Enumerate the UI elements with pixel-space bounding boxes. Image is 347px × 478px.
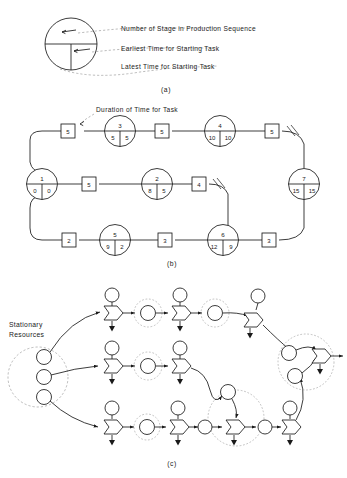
panel-a: Number of Stage in Production Sequence E… xyxy=(45,18,256,94)
row3-transition-4 xyxy=(282,420,301,434)
row1-place-1 xyxy=(141,306,156,321)
row3-input-place-3 xyxy=(283,401,297,415)
tr-place-1 xyxy=(282,346,297,361)
duration-box-1-5: 2 xyxy=(62,233,76,247)
row3-transition-2 xyxy=(170,420,189,434)
panel-c: Stationary Resources xyxy=(8,288,343,468)
node-2-stage: 2 xyxy=(155,175,159,182)
node-6: 6 12 9 xyxy=(208,225,239,256)
row2-sink-1 xyxy=(109,374,115,385)
node-6-earliest: 12 xyxy=(211,244,218,250)
node-6-stage: 6 xyxy=(221,231,225,238)
row2-sink-2 xyxy=(177,374,183,385)
caption-panel-c: (c) xyxy=(167,460,176,468)
row3-place-1 xyxy=(140,420,155,435)
node-2: 2 8 5 xyxy=(142,169,173,200)
legend-text-latest: Latest Time for Starting Task xyxy=(121,63,215,71)
node-1: 1 0 0 xyxy=(27,169,58,200)
figure-canvas: Number of Stage in Production Sequence E… xyxy=(0,0,347,478)
node-5: 5 9 2 xyxy=(100,225,131,256)
node-4-stage: 4 xyxy=(218,122,222,129)
legend-annotation-latest: Latest Time for Starting Task xyxy=(121,63,215,71)
row2-place-1 xyxy=(141,359,156,374)
stationary-resources-group: Stationary Resources xyxy=(8,321,68,407)
tr-transition xyxy=(312,349,331,363)
row1-input-place-2 xyxy=(173,288,187,302)
merge-transition xyxy=(244,313,263,327)
resource-place-2 xyxy=(37,370,52,385)
row1-place-2 xyxy=(208,306,223,321)
duration-label: Duration of Time for Task xyxy=(96,106,178,113)
duration-box-4-7: 5 xyxy=(265,124,279,138)
row1-sink-1 xyxy=(109,321,115,332)
petri-row-3 xyxy=(104,378,303,446)
node-4: 4 10 10 xyxy=(205,116,236,147)
legend-annotation-stage: Number of Stage in Production Sequence xyxy=(121,25,256,33)
row3-sink-2 xyxy=(175,435,181,446)
node-7: 7 15 15 xyxy=(289,169,320,200)
row3-place-3 xyxy=(221,385,236,400)
merge-input-place xyxy=(251,289,265,303)
row1-input-place-1 xyxy=(105,288,119,302)
row3-sink-3 xyxy=(231,435,237,446)
node-7-stage: 7 xyxy=(302,175,306,182)
tr-place-2 xyxy=(288,369,303,384)
duration-box-1-3: 5 xyxy=(61,124,75,138)
row2-transition-1 xyxy=(104,359,123,373)
resource-place-1 xyxy=(37,350,52,365)
node-1-stage: 1 xyxy=(40,175,44,182)
row1-transition-2 xyxy=(172,306,191,320)
row1-sink-2 xyxy=(177,321,183,332)
merge-sink xyxy=(247,328,253,339)
node-5-stage: 5 xyxy=(113,231,117,238)
node-4-latest: 10 xyxy=(225,135,232,141)
row2-input-place-2 xyxy=(173,341,187,355)
node-3: 3 5 5 xyxy=(105,116,136,147)
node-3-stage: 3 xyxy=(118,122,122,129)
duration-box-5-6: 3 xyxy=(158,233,172,247)
row3-transition-3 xyxy=(226,420,245,434)
row3-sink-1 xyxy=(109,435,115,446)
petri-cluster-top-right xyxy=(278,334,343,390)
row2-input-place-1 xyxy=(105,341,119,355)
caption-panel-b: (b) xyxy=(167,260,177,268)
row3-place-4 xyxy=(258,420,272,434)
resource-place-3 xyxy=(37,390,52,405)
legend-text-stage: Number of Stage in Production Sequence xyxy=(121,25,256,33)
duration-box-2-dummy: 4 xyxy=(192,177,206,191)
row1-transition-1 xyxy=(104,306,123,320)
duration-box-1-2: 5 xyxy=(82,177,96,191)
petri-row-1 xyxy=(104,288,290,350)
legend-node-symbol xyxy=(45,18,97,70)
legend-annotation-earliest: Earliest Time for Starting Task xyxy=(121,45,220,53)
tr-sink xyxy=(317,364,323,375)
duration-box-3-4: 5 xyxy=(155,124,169,138)
row3-transition-1 xyxy=(104,420,123,434)
row3-input-place-1 xyxy=(105,401,119,415)
caption-panel-a: (a) xyxy=(161,86,171,94)
row3-sink-4 xyxy=(287,435,293,446)
node-7-earliest: 15 xyxy=(293,188,300,194)
node-4-earliest: 10 xyxy=(209,135,216,141)
row3-place-2 xyxy=(198,420,212,434)
resource-dispatch-arcs xyxy=(50,312,100,427)
panel-b: Duration of Time for Task xyxy=(27,106,320,268)
node-7-latest: 15 xyxy=(309,188,316,194)
stationary-resources-label-line2: Resources xyxy=(9,331,44,338)
row2-transition-2 xyxy=(172,359,191,373)
petri-row-2 xyxy=(104,341,222,400)
duration-box-6-7: 3 xyxy=(262,233,276,247)
figure-root: Number of Stage in Production Sequence E… xyxy=(0,0,347,478)
row3-input-place-2 xyxy=(171,401,185,415)
legend-text-earliest: Earliest Time for Starting Task xyxy=(121,45,220,53)
stationary-resources-label-line1: Stationary xyxy=(9,321,43,329)
